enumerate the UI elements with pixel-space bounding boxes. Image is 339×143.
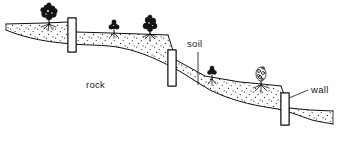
label-wall: wall <box>310 84 329 95</box>
plant-4-foliage <box>208 66 217 75</box>
wall-leader-line <box>289 90 308 98</box>
label-rock: rock <box>86 79 105 90</box>
wall-1 <box>68 18 76 52</box>
wall-3 <box>281 93 289 125</box>
wall-2 <box>168 50 176 86</box>
plant-2-foliage-voids <box>113 25 114 26</box>
terrace-cross-section-svg: rock soil wall <box>0 0 339 143</box>
plant-2-foliage <box>109 20 119 29</box>
label-soil: soil <box>187 38 202 49</box>
terrace-diagram-figure: rock soil wall <box>0 0 339 143</box>
plant-1-foliage <box>41 3 58 20</box>
plant-3-foliage <box>143 15 157 32</box>
